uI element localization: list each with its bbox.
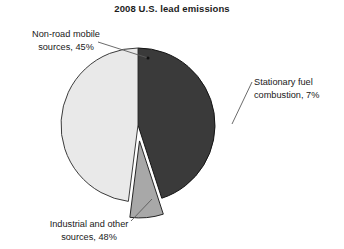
leader-line-stationary-fuel [232,82,252,124]
label-industrial-other: Industrial and other sources, 48% [24,218,154,243]
label-non-road-mobile: Non-road mobile sources, 45% [10,28,122,53]
label-stationary-fuel-line2: combustion, 7% [254,89,344,102]
leader-dot-non-road-mobile [147,57,150,60]
label-non-road-mobile-line2: sources, 45% [10,41,122,54]
label-non-road-mobile-line1: Non-road mobile [32,29,100,39]
label-stationary-fuel-line1: Stationary fuel [254,77,313,87]
pie-slice-industrial-other[interactable] [61,48,138,201]
label-stationary-fuel: Stationary fuel combustion, 7% [254,76,344,101]
label-industrial-other-line2: sources, 48% [24,231,154,244]
pie-chart-figure: 2008 U.S. lead emissions Non-road mobile… [0,0,344,249]
label-industrial-other-line1: Industrial and other [50,219,129,229]
